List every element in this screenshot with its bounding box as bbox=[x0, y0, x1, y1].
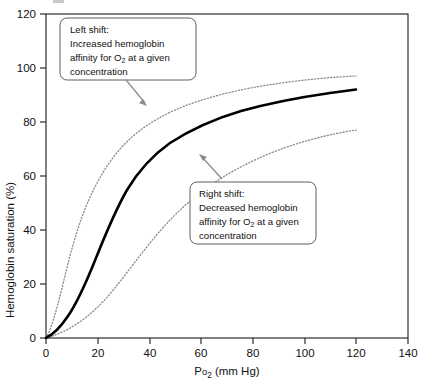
y-tick-label-80: 80 bbox=[23, 116, 36, 128]
oxygen-dissociation-curve-figure: 0 20 40 60 80 100 120 Hemoglobin saturat… bbox=[0, 0, 425, 379]
right-shift-line-2: Decreased hemoglobin bbox=[199, 202, 298, 213]
left-shift-leader-arrowhead bbox=[139, 99, 147, 106]
left-shift-line-1: Left shift: bbox=[70, 24, 109, 35]
y-axis-title: Hemoglobin saturation (%) bbox=[4, 182, 16, 318]
x-tick-label-120: 120 bbox=[346, 347, 365, 359]
right-shift-line-1: Right shift: bbox=[199, 188, 244, 199]
y-tick-label-40: 40 bbox=[23, 224, 36, 236]
right-shift-callout: Right shift: Decreased hemoglobin affini… bbox=[190, 154, 316, 244]
y-tick-label-20: 20 bbox=[23, 278, 36, 290]
left-shift-line-3-pre: affinity for O bbox=[70, 52, 122, 63]
right-shift-leader-arrowhead bbox=[199, 154, 207, 161]
left-shift-line-4: concentration bbox=[70, 66, 128, 77]
right-shift-line-3-post: at a given bbox=[254, 216, 298, 227]
left-shift-line-3: affinity for O2 at a given bbox=[70, 52, 170, 64]
y-tick-label-60: 60 bbox=[23, 170, 36, 182]
x-axis-title: Po2 (mm Hg) bbox=[194, 365, 259, 379]
x-tick-label-80: 80 bbox=[247, 347, 260, 359]
chart-canvas: 0 20 40 60 80 100 120 Hemoglobin saturat… bbox=[0, 0, 425, 379]
left-shift-line-3-post: at a given bbox=[125, 52, 169, 63]
left-shift-line-2: Increased hemoglobin bbox=[70, 38, 164, 49]
right-shift-line-3: affinity for O2 at a given bbox=[199, 216, 299, 228]
x-tick-label-100: 100 bbox=[295, 347, 314, 359]
y-tick-label-0: 0 bbox=[30, 332, 36, 344]
x-tick-label-20: 20 bbox=[92, 347, 105, 359]
right-shift-line-3-pre: affinity for O bbox=[199, 216, 251, 227]
x-tick-label-40: 40 bbox=[144, 347, 157, 359]
right-shift-line-4: concentration bbox=[199, 230, 257, 241]
right-shift-leader-line bbox=[202, 157, 222, 179]
y-tick-marks bbox=[40, 14, 46, 338]
x-axis: 0 20 40 60 80 100 120 140 Po2 (mm Hg) bbox=[43, 338, 418, 379]
left-shift-callout: Left shift: Increased hemoglobin affinit… bbox=[60, 18, 196, 106]
y-tick-label-100: 100 bbox=[17, 62, 36, 74]
y-tick-label-120: 120 bbox=[17, 8, 36, 20]
x-tick-marks bbox=[46, 338, 408, 344]
y-axis: 0 20 40 60 80 100 120 Hemoglobin saturat… bbox=[4, 8, 46, 344]
x-tick-label-60: 60 bbox=[195, 347, 208, 359]
x-axis-title-tail: (mm Hg) bbox=[212, 365, 260, 377]
left-shift-leader-line bbox=[126, 80, 145, 103]
x-tick-label-140: 140 bbox=[398, 347, 417, 359]
scan-artifact bbox=[53, 0, 64, 3]
x-tick-label-0: 0 bbox=[43, 347, 49, 359]
